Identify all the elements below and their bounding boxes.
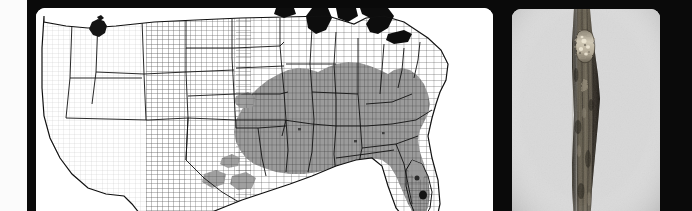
south-florida-county-record	[419, 191, 427, 200]
twig-canker-photograph	[512, 9, 660, 211]
photo-vignette	[512, 9, 660, 211]
distribution-map-panel	[36, 8, 493, 211]
page-margin-strip	[0, 0, 27, 211]
central-florida-county-record	[415, 176, 420, 181]
figure-stage	[0, 0, 692, 211]
specimen-photo-panel	[512, 9, 660, 211]
us-county-distribution-map	[36, 8, 493, 211]
